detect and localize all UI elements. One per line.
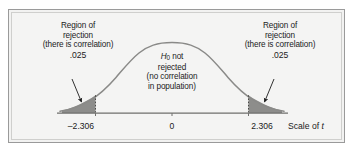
axis-tick-label-zero: 0 <box>150 121 194 131</box>
left-rejection-line2: rejection <box>16 31 140 41</box>
axis-tick-label-positive: 2.306 <box>240 121 284 131</box>
left-rejection-line3: (there is correlation) <box>16 40 140 50</box>
right-rejection-line1: Region of <box>218 21 342 31</box>
right-rejection-label: Region of rejection (there is correlatio… <box>218 21 342 61</box>
null-hypothesis-line3: (no correlation <box>124 72 220 82</box>
null-hypothesis-line2: rejected <box>124 63 220 73</box>
hypothesis-suffix: not <box>170 52 183 61</box>
axis-tick-label-negative: –2.306 <box>58 121 104 131</box>
axis-title-prefix: Scale of <box>288 121 321 131</box>
right-rejection-line3: (there is correlation) <box>218 40 342 50</box>
figure-screenshot: Region of rejection (there is correlatio… <box>0 0 358 153</box>
left-rejection-line1: Region of <box>16 21 140 31</box>
null-hypothesis-label: H0 not rejected (no correlation in popul… <box>124 52 220 92</box>
left-annotation-arrow <box>72 79 82 102</box>
null-hypothesis-line1: H0 not <box>124 52 220 63</box>
null-hypothesis-line4: in population) <box>124 82 220 92</box>
axis-title-variable: t <box>321 121 323 131</box>
right-rejection-alpha: .025 <box>218 50 342 61</box>
axis-title: Scale of t <box>288 121 346 131</box>
left-rejection-label: Region of rejection (there is correlatio… <box>16 21 140 61</box>
right-rejection-line2: rejection <box>218 31 342 41</box>
right-annotation-arrow <box>265 79 275 102</box>
left-rejection-alpha: .025 <box>16 50 140 61</box>
